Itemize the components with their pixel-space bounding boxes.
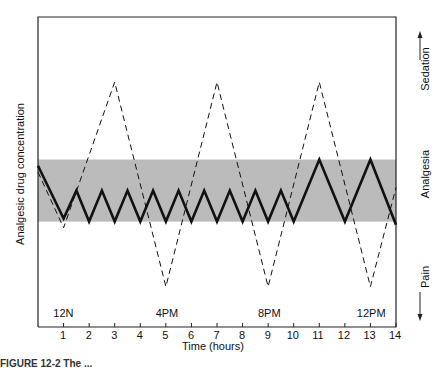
x-tick-label: 6 bbox=[188, 329, 194, 341]
x-tick-label: 13 bbox=[363, 329, 375, 341]
x-tick-label: 10 bbox=[287, 329, 299, 341]
x-tick-label: 3 bbox=[111, 329, 117, 341]
zone-label-analgesia: Analgesia bbox=[419, 134, 431, 214]
x-tick-label: 14 bbox=[389, 329, 401, 341]
x-tick-label: 4 bbox=[137, 329, 143, 341]
arrow-down-icon bbox=[418, 314, 423, 321]
x-tick-label: 2 bbox=[86, 329, 92, 341]
clock-label: 12PM bbox=[357, 307, 386, 319]
x-tick-label: 8 bbox=[239, 329, 245, 341]
x-tick-label: 7 bbox=[214, 329, 220, 341]
x-axis-label: Time (hours) bbox=[182, 340, 244, 352]
figure-caption: FIGURE 12-2 The ... bbox=[0, 358, 92, 369]
zone-label-pain: Pain bbox=[419, 247, 431, 307]
x-tick-label: 1 bbox=[60, 329, 66, 341]
x-tick-label: 12 bbox=[338, 329, 350, 341]
arrow-up-icon bbox=[418, 31, 423, 38]
x-tick-label: 11 bbox=[312, 329, 323, 341]
clock-label: 8PM bbox=[258, 307, 281, 319]
clock-label: 4PM bbox=[156, 307, 179, 319]
clock-label: 12N bbox=[53, 307, 73, 319]
zone-label-sedation: Sedation bbox=[419, 39, 431, 99]
x-tick-label: 9 bbox=[265, 329, 271, 341]
y-axis-label: Analgesic drug concentration bbox=[14, 99, 26, 249]
x-tick-label: 5 bbox=[162, 329, 168, 341]
